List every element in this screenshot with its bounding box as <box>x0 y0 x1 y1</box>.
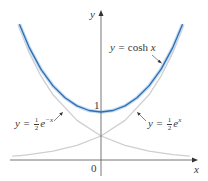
curve-half-exp-neg <box>18 25 190 157</box>
y-axis-label: y <box>90 9 95 20</box>
cosh-label-lhs: y = <box>110 41 128 53</box>
cosh-label: y = cosh x <box>110 42 156 53</box>
exp-pos-label: y = 12ex <box>148 117 181 132</box>
cosh-label-func: cosh <box>128 41 148 53</box>
exp-pos-fraction: 12 <box>167 117 173 132</box>
y-axis-arrow-icon <box>99 10 104 16</box>
exp-pos-exponent: x <box>178 116 181 124</box>
x-axis-arrow-icon <box>192 158 198 163</box>
exp-neg-exponent: −x <box>45 116 53 124</box>
y-tick-1-label: 1 <box>94 100 100 111</box>
exp-pos-label-lhs: y = <box>148 117 166 129</box>
exp-neg-fraction: 12 <box>34 117 40 132</box>
exp-neg-label: y = 12e−x <box>15 117 53 132</box>
origin-label: 0 <box>91 163 97 174</box>
plot-canvas <box>0 0 208 181</box>
curve-half-exp-pos <box>12 25 184 157</box>
exp-neg-pointer-line <box>54 114 61 121</box>
cosh-label-var: x <box>151 41 156 53</box>
x-axis-label: x <box>194 164 199 175</box>
exp-neg-label-lhs: y = <box>15 117 33 129</box>
exp-pos-pointer-line <box>139 114 146 121</box>
cosh-diagram: y x 0 1 y = cosh x y = 12e−x y = 12ex <box>0 0 208 181</box>
